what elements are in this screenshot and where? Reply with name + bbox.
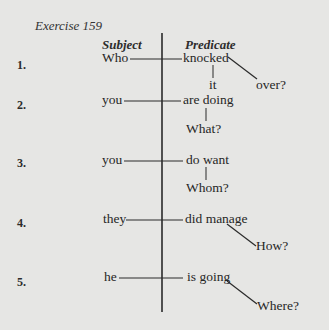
modifier-word: over? — [256, 78, 286, 92]
row-number: 4. — [17, 217, 26, 229]
modifier-word: How? — [256, 239, 288, 253]
object-word: it — [209, 78, 217, 92]
subject-word: he — [104, 270, 117, 284]
object-word: What? — [186, 122, 221, 136]
predicate-word: do want — [186, 153, 229, 167]
modifier-word: Where? — [257, 299, 299, 313]
subject-word: you — [102, 153, 122, 167]
modifier-slant-row-1 — [228, 57, 257, 79]
predicate-word: is going — [187, 270, 230, 284]
row-number: 3. — [17, 157, 26, 169]
diagram-lines — [0, 0, 329, 330]
row-number: 5. — [17, 276, 26, 288]
modifier-slant-row-4 — [227, 224, 256, 246]
predicate-word: did manage — [185, 212, 248, 226]
predicate-word: knocked — [183, 51, 229, 65]
subject-word: you — [102, 93, 122, 107]
modifier-slant-row-5 — [227, 281, 257, 304]
predicate-word: are doing — [183, 93, 234, 107]
subject-word: they — [103, 212, 126, 226]
object-word: Whom? — [186, 181, 229, 195]
row-number: 1. — [17, 59, 26, 71]
row-number: 2. — [17, 99, 26, 111]
subject-word: Who — [102, 51, 128, 65]
exercise-title: Exercise 159 — [35, 19, 102, 32]
